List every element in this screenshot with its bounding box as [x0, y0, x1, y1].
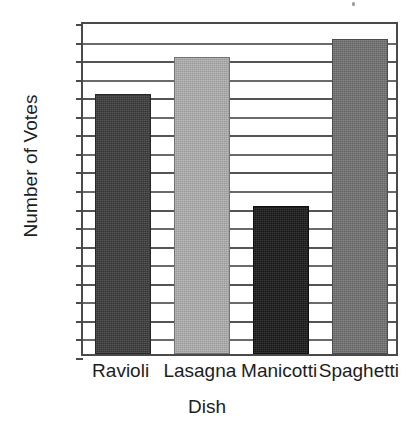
y-axis-tick-mark [76, 43, 83, 45]
y-axis-tick-mark [76, 98, 83, 100]
x-axis-tick-label: Ravioli [81, 360, 160, 382]
bar-ravioli [95, 94, 151, 354]
y-axis-tick-mark [76, 210, 83, 212]
y-axis-tick-mark [76, 191, 83, 193]
y-axis-tick-mark [76, 284, 83, 286]
y-axis-tick-mark [76, 154, 83, 156]
plot-area [81, 22, 398, 356]
y-axis-tick-mark [76, 135, 83, 137]
bar-fill [332, 39, 388, 354]
plot-inner [83, 24, 396, 354]
x-axis-tick-label: Lasagna [160, 360, 239, 382]
bar-lasagna [174, 57, 230, 354]
y-axis-tick-mark [76, 80, 83, 82]
bar-fill [253, 206, 309, 354]
y-axis-title: Number of Votes [20, 56, 42, 276]
y-axis-tick-mark [76, 61, 83, 63]
y-axis-tick-mark [76, 321, 83, 323]
bar-manicotti [253, 206, 309, 354]
y-axis-tick-mark [76, 117, 83, 119]
y-axis-tick-mark [76, 228, 83, 230]
x-axis-tick-label: Manicotti [240, 360, 319, 382]
y-axis-tick-mark [76, 247, 83, 249]
y-axis-tick-mark [76, 339, 83, 341]
y-axis-tick-mark [76, 302, 83, 304]
x-axis-tick-label: Spaghetti [319, 360, 398, 382]
scan-artifact-speck [352, 2, 355, 6]
y-axis-tick-mark [76, 172, 83, 174]
bar-fill [174, 57, 230, 354]
y-axis-tick-mark [76, 265, 83, 267]
x-axis-title: Dish [0, 396, 414, 418]
bar-fill [95, 94, 151, 354]
bar-chart: Number of Votes 081624324048566472 Ravio… [0, 0, 414, 430]
bar-spaghetti [332, 39, 388, 354]
y-axis-tick-mark [76, 24, 83, 26]
